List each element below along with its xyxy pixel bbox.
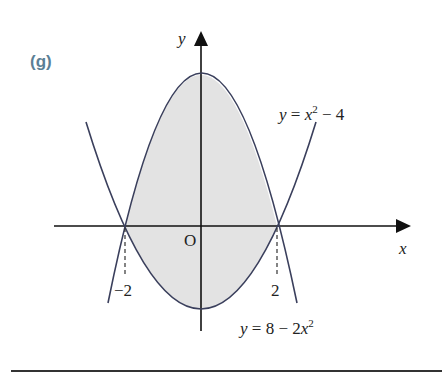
equation-label-lower: y = 8 − 2x2 xyxy=(240,318,314,337)
eq-constant: − 4 xyxy=(318,105,345,124)
x-axis-arrow-icon xyxy=(396,219,411,233)
eq-y: y xyxy=(279,105,287,124)
graph-figure xyxy=(0,0,442,373)
bottom-divider xyxy=(11,370,442,372)
y-axis-label: y xyxy=(178,30,186,47)
y-axis-arrow-icon xyxy=(194,31,208,46)
eq-rhs: 8 − 2 xyxy=(266,319,301,338)
x-axis-label: x xyxy=(399,240,407,257)
eq-exponent: 2 xyxy=(308,317,314,329)
tick-label-minus-2: −2 xyxy=(114,282,132,299)
equation-label-upper: y = x2 − 4 xyxy=(279,104,344,123)
eq-equals: = xyxy=(291,105,301,124)
tick-label-2: 2 xyxy=(271,282,280,299)
eq-equals: = xyxy=(252,319,262,338)
origin-label: O xyxy=(184,232,196,249)
eq-y: y xyxy=(240,319,248,338)
part-label: (g) xyxy=(30,52,52,72)
